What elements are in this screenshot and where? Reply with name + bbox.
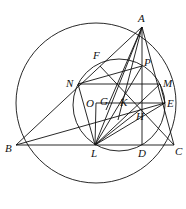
segment-NL <box>78 84 95 145</box>
label-P: P <box>143 56 151 68</box>
label-A: A <box>137 12 145 24</box>
label-M: M <box>162 77 173 89</box>
label-E: E <box>166 97 174 109</box>
segment-LM <box>95 84 160 145</box>
label-B: B <box>5 142 12 154</box>
label-C: C <box>175 145 183 157</box>
label-H: H <box>135 110 145 122</box>
label-N: N <box>65 77 74 89</box>
label-O: O <box>86 97 94 109</box>
label-K: K <box>119 96 128 108</box>
label-G: G <box>100 95 108 107</box>
label-F: F <box>92 49 100 61</box>
label-D: D <box>137 147 146 159</box>
segment-OL <box>95 103 96 145</box>
geometry-diagram: A B C D L N M E H O G K P F <box>0 0 186 209</box>
label-L: L <box>90 147 97 159</box>
